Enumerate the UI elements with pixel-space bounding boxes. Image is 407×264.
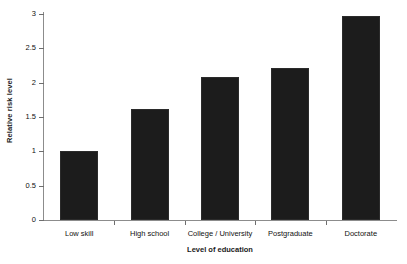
- bar-chart: Relative risk level 00.511.522.53Low ski…: [0, 0, 407, 264]
- bar: [201, 77, 239, 220]
- y-axis-tick: 0: [39, 220, 44, 221]
- y-axis-title: Relative risk level: [0, 0, 18, 220]
- y-axis-tick-label: 0.5: [26, 181, 36, 190]
- y-axis-tick: 1.5: [39, 117, 44, 118]
- y-axis-tick-label: 2.5: [26, 43, 36, 52]
- y-axis-title-label: Relative risk level: [5, 78, 14, 143]
- y-axis-tick: 3: [39, 14, 44, 15]
- y-axis-tick-label: 0: [32, 215, 36, 224]
- bar: [60, 151, 98, 220]
- y-axis-tick: 0.5: [39, 186, 44, 187]
- x-axis-category-label: Postgraduate: [268, 229, 313, 238]
- bar: [271, 68, 309, 220]
- x-axis-tick: [114, 221, 115, 225]
- x-axis-tick: [185, 221, 186, 225]
- x-axis-title: Level of education: [44, 245, 396, 254]
- x-axis-category-label: Low skill: [65, 229, 93, 238]
- y-axis-tick-label: 1.5: [26, 112, 36, 121]
- x-axis-line: [43, 220, 397, 221]
- y-axis-tick-label: 3: [32, 9, 36, 18]
- x-axis-category-label: High school: [130, 229, 169, 238]
- x-axis-category-label: College / University: [188, 229, 253, 238]
- x-axis-tick: [255, 221, 256, 225]
- y-axis-tick-label: 1: [32, 146, 36, 155]
- x-axis-category-label: Doctorate: [345, 229, 378, 238]
- y-axis-tick: 2: [39, 83, 44, 84]
- bar: [342, 16, 380, 220]
- bar: [131, 109, 169, 220]
- y-axis-tick: 2.5: [39, 48, 44, 49]
- y-axis-tick: 1: [39, 151, 44, 152]
- x-axis-tick: [326, 221, 327, 225]
- y-axis-tick-label: 2: [32, 78, 36, 87]
